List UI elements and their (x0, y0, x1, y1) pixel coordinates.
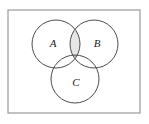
universal-set-rectangle (8, 10, 140, 113)
venn-diagram-figure: A B C (0, 0, 149, 124)
venn-diagram-svg: A B C (0, 0, 149, 124)
set-label-b: B (94, 37, 101, 49)
set-label-c: C (72, 76, 80, 88)
set-label-a: A (49, 37, 57, 49)
